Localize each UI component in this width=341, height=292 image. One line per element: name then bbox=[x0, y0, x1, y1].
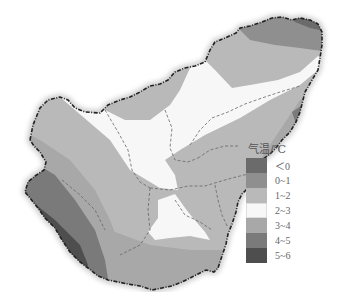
legend-title: 气温/℃ bbox=[248, 142, 336, 158]
legend-item: 0~1 bbox=[246, 173, 336, 188]
legend-swatch bbox=[246, 203, 267, 218]
legend-label: 1~2 bbox=[275, 190, 290, 201]
legend-swatch bbox=[246, 188, 267, 203]
legend-item: 1~2 bbox=[246, 188, 336, 203]
legend-label: 2~3 bbox=[275, 205, 290, 216]
legend-swatch bbox=[246, 248, 267, 263]
legend-item: 2~3 bbox=[246, 203, 336, 218]
legend-swatch bbox=[246, 233, 267, 248]
legend-item: 5~6 bbox=[246, 248, 336, 263]
legend-swatch bbox=[246, 218, 267, 233]
legend-label: 3~4 bbox=[275, 220, 290, 231]
legend-swatch bbox=[246, 173, 267, 188]
legend: 气温/℃ ＜0 0~1 1~2 2~3 3~4 4~5 5~6 bbox=[246, 142, 336, 263]
legend-item: ＜0 bbox=[246, 158, 336, 173]
legend-label: 4~5 bbox=[275, 235, 290, 246]
legend-label: ＜0 bbox=[275, 158, 290, 173]
legend-label: 0~1 bbox=[275, 175, 290, 186]
legend-swatch bbox=[246, 158, 267, 173]
legend-item: 3~4 bbox=[246, 218, 336, 233]
legend-label: 5~6 bbox=[275, 250, 290, 261]
legend-item: 4~5 bbox=[246, 233, 336, 248]
